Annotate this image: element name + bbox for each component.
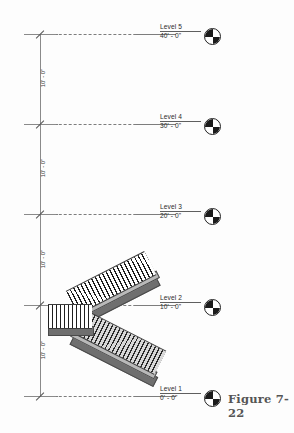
- level-name-label: Level 3: [160, 203, 201, 210]
- dimension-text-level2-level1[interactable]: 10' - 0": [40, 327, 46, 373]
- level-bubble-icon[interactable]: [204, 390, 221, 407]
- level-head-level-5[interactable]: Level 5 40' - 0": [160, 23, 201, 40]
- dimension-text-level5-level4[interactable]: 10' - 0": [40, 55, 46, 101]
- landing-railing: [48, 304, 92, 329]
- level-bubble-icon[interactable]: [204, 299, 221, 316]
- figure-caption: Figure 7-22: [228, 392, 294, 420]
- level-bubble-icon[interactable]: [204, 208, 221, 225]
- dimension-text-level3-level2[interactable]: 10' - 0": [40, 236, 46, 282]
- dimension-text-level4-level3[interactable]: 10' - 0": [40, 145, 46, 191]
- level-elevation-label: 20' - 0": [160, 212, 201, 219]
- level-elevation-label: 30' - 0": [160, 122, 201, 129]
- stair-assembly[interactable]: [48, 262, 170, 398]
- level-head-level-4[interactable]: Level 4 30' - 0": [160, 113, 201, 130]
- level-head-level-3[interactable]: Level 3 20' - 0": [160, 203, 201, 220]
- level-name-label: Level 5: [160, 23, 201, 30]
- level-name-label: Level 4: [160, 113, 201, 120]
- level-elevation-label: 40' - 0": [160, 32, 201, 39]
- level-bubble-icon[interactable]: [204, 118, 221, 135]
- drawing-canvas: 10' - 0" 10' - 0" 10' - 0" 10' - 0" Leve…: [0, 0, 294, 433]
- level-bubble-icon[interactable]: [204, 28, 221, 45]
